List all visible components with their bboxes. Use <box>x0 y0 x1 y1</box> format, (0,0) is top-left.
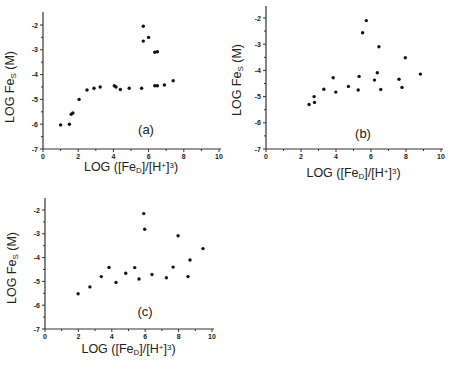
data-point <box>143 228 146 231</box>
y-tick-label: -5 <box>255 93 261 100</box>
data-point <box>373 78 376 81</box>
data-point <box>156 50 159 53</box>
data-point <box>186 275 189 278</box>
data-point <box>137 277 140 280</box>
x-tick-label: 0 <box>43 333 47 340</box>
y-tick-label: -6 <box>255 119 261 126</box>
data-point <box>76 292 79 295</box>
data-point <box>68 123 71 126</box>
data-point <box>114 281 117 284</box>
y-tick-label: -4 <box>32 71 38 78</box>
data-point <box>313 101 316 104</box>
data-point <box>172 79 175 82</box>
data-point <box>124 272 127 275</box>
data-point <box>347 85 350 88</box>
figure-canvas: 0246810-2-3-4-5-6-7(a)LOG ([FeD]/[H+]3)L… <box>0 0 453 372</box>
x-tick-label: 8 <box>404 153 408 160</box>
y-tick-label: -3 <box>32 46 38 53</box>
x-tick-label: 2 <box>76 153 80 160</box>
panel-label: (b) <box>355 126 371 141</box>
data-point <box>379 88 382 91</box>
panel-label: (c) <box>137 304 152 319</box>
data-point <box>140 87 143 90</box>
data-point <box>176 234 179 237</box>
x-tick-label: 4 <box>334 153 338 160</box>
x-tick-label: 4 <box>110 333 114 340</box>
data-point <box>100 275 103 278</box>
data-point <box>59 123 62 126</box>
data-point <box>114 85 117 88</box>
data-point <box>150 273 153 276</box>
x-axis-title: LOG ([FeD]/[H+]3) <box>84 160 178 175</box>
x-tick-label: 0 <box>264 153 268 160</box>
x-tick-label: 6 <box>143 333 147 340</box>
y-tick-label: -7 <box>32 146 38 153</box>
data-point <box>107 266 110 269</box>
data-point <box>307 103 310 106</box>
y-tick-label: -4 <box>34 254 40 261</box>
data-point <box>163 83 166 86</box>
y-tick-label: -2 <box>34 207 40 214</box>
data-point <box>99 85 102 88</box>
data-point <box>377 45 380 48</box>
y-tick-label: -6 <box>34 302 40 309</box>
x-tick-label: 10 <box>437 153 445 160</box>
x-tick-label: 2 <box>299 153 303 160</box>
y-axis-title: LOG FeS (M) <box>3 51 18 123</box>
x-tick-label: 8 <box>177 333 181 340</box>
data-point <box>156 84 159 87</box>
y-tick-label: -7 <box>34 326 40 333</box>
data-point <box>85 88 88 91</box>
data-point <box>419 72 422 75</box>
data-point <box>376 71 379 74</box>
data-point <box>404 56 407 59</box>
x-tick-label: 10 <box>208 333 216 340</box>
x-tick-label: 4 <box>111 153 115 160</box>
x-axis-title: LOG ([FeD]/[H+]3) <box>81 342 175 357</box>
data-point <box>147 36 150 39</box>
data-point <box>71 111 74 114</box>
data-point <box>361 31 364 34</box>
y-tick-label: -2 <box>32 22 38 29</box>
data-point <box>128 87 131 90</box>
y-tick-label: -5 <box>32 96 38 103</box>
data-point <box>332 76 335 79</box>
data-point <box>312 95 315 98</box>
x-tick-label: 6 <box>369 153 373 160</box>
y-tick-label: -7 <box>255 146 261 153</box>
y-tick-label: -3 <box>255 41 261 48</box>
y-tick-label: -4 <box>255 67 261 74</box>
y-axis-title: LOG FeS (M) <box>5 232 20 304</box>
scatter-panel-c: 0246810-2-3-4-5-6-7(c)LOG ([FeD]/[H+]3)L… <box>5 198 216 357</box>
data-point <box>142 25 145 28</box>
y-tick-label: -5 <box>34 278 40 285</box>
data-point <box>133 266 136 269</box>
data-point <box>171 265 174 268</box>
x-tick-label: 0 <box>41 153 45 160</box>
data-point <box>201 247 204 250</box>
data-point <box>142 212 145 215</box>
x-tick-label: 10 <box>215 153 223 160</box>
data-point <box>400 86 403 89</box>
data-point <box>397 78 400 81</box>
data-point <box>322 88 325 91</box>
x-tick-label: 8 <box>182 153 186 160</box>
x-tick-label: 6 <box>147 153 151 160</box>
data-point <box>119 88 122 91</box>
data-point <box>334 90 337 93</box>
y-tick-label: -6 <box>32 121 38 128</box>
x-axis-title: LOG ([FeD]/[H+]3) <box>306 166 400 181</box>
data-point <box>365 19 368 22</box>
data-point <box>142 39 145 42</box>
data-point <box>188 258 191 261</box>
data-point <box>92 87 95 90</box>
panel-label: (a) <box>138 122 154 137</box>
scatter-panel-b: 0246810-2-3-4-5-6-7(b)LOG ([FeD]/[H+]3)L… <box>230 6 445 181</box>
y-tick-label: -2 <box>255 15 261 22</box>
data-point <box>88 285 91 288</box>
data-point <box>357 75 360 78</box>
data-point <box>165 276 168 279</box>
y-axis-title: LOG FeS (M) <box>230 44 245 116</box>
x-tick-label: 2 <box>76 333 80 340</box>
data-point <box>357 88 360 91</box>
